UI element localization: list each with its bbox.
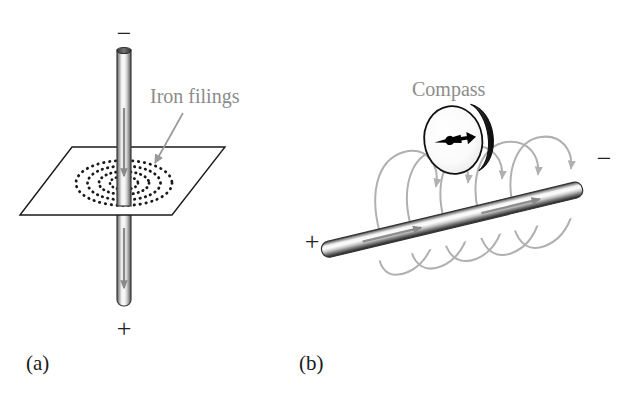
- compass: [420, 101, 498, 178]
- panel-b-group: Compass: [299, 78, 611, 375]
- panel-a-group: − Iron filings: [20, 19, 240, 375]
- iron-filings-label: Iron filings: [150, 85, 240, 108]
- panel-a-minus-terminal: −: [117, 19, 132, 48]
- panel-a-caption: (a): [26, 351, 49, 375]
- vertical-wire-lower-segment: [117, 200, 131, 306]
- physics-figure-svg: − Iron filings: [0, 0, 635, 399]
- panel-b-minus-terminal: −: [597, 144, 612, 173]
- compass-label: Compass: [412, 78, 486, 101]
- panel-a-plus-terminal: +: [117, 314, 132, 343]
- panel-b-plus-terminal: +: [305, 227, 320, 256]
- panel-b-caption: (b): [299, 351, 324, 375]
- vertical-wire-upper-segment: [117, 48, 131, 207]
- wire-top-cap: [117, 48, 131, 54]
- figure-container: − Iron filings: [0, 0, 635, 399]
